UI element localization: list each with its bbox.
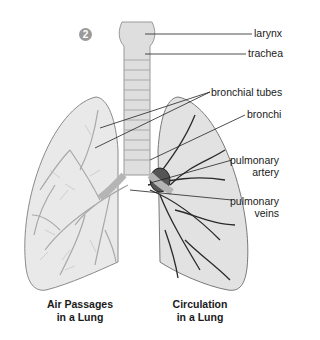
- label-larynx: larynx: [254, 27, 282, 39]
- label-pulmonary-veins-1: pulmonary: [230, 195, 279, 207]
- caption-left-line2: in a Lung: [35, 311, 125, 324]
- label-bronchial-tubes: bronchial tubes: [211, 86, 282, 98]
- caption-air-passages: Air Passages in a Lung: [35, 298, 125, 324]
- right-lung: [148, 97, 248, 290]
- caption-left-line1: Air Passages: [35, 298, 125, 311]
- left-lung: [25, 97, 128, 290]
- label-pulmonary-artery-2: artery: [252, 166, 279, 178]
- caption-right-line1: Circulation: [155, 298, 245, 311]
- label-bronchi: bronchi: [247, 108, 281, 120]
- label-pulmonary-veins-2: veins: [254, 207, 279, 219]
- caption-circulation: Circulation in a Lung: [155, 298, 245, 324]
- caption-right-line2: in a Lung: [155, 311, 245, 324]
- step-number-badge: 2: [79, 28, 92, 41]
- label-trachea: trachea: [248, 47, 283, 59]
- label-pulmonary-artery-1: pulmonary: [230, 154, 279, 166]
